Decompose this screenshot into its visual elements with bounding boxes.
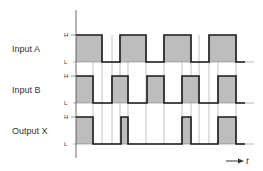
high-pulse	[112, 76, 128, 103]
high-pulse	[218, 117, 236, 144]
level-high: H	[64, 73, 68, 79]
high-pulse	[164, 35, 191, 62]
high-pulse	[121, 117, 128, 144]
signal-labels: Input AHLInput BHLOutput XHL	[12, 32, 76, 147]
high-pulse	[218, 76, 236, 103]
time-axis-arrow: t	[226, 155, 249, 166]
high-pulse	[76, 35, 102, 62]
high-pulse	[147, 76, 164, 103]
level-low: L	[64, 141, 68, 147]
timing-diagram: Input AHLInput BHLOutput XHL t	[0, 0, 263, 171]
level-low: L	[64, 59, 68, 65]
signal-name: Output X	[12, 126, 48, 136]
level-low: L	[64, 100, 68, 106]
high-pulse	[209, 35, 236, 62]
signal-name: Input B	[12, 85, 41, 95]
high-pulse	[182, 76, 199, 103]
signal-name: Input A	[12, 44, 40, 54]
level-high: H	[64, 32, 68, 38]
high-pulse	[76, 117, 93, 144]
signal-fills	[76, 35, 236, 144]
level-high: H	[64, 114, 68, 120]
high-pulse	[76, 76, 93, 103]
high-pulse	[182, 117, 191, 144]
high-pulse	[120, 35, 146, 62]
time-label: t	[246, 155, 249, 166]
